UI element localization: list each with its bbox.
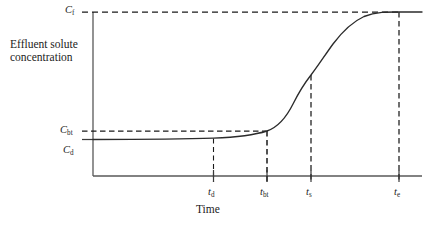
t-bt-label: tbt — [260, 186, 269, 198]
c-d-label-sub: d — [70, 149, 74, 157]
plot-area — [0, 0, 430, 228]
c-f-label-base: C — [65, 4, 72, 15]
t-s-label-sub: s — [309, 191, 312, 199]
c-bt-label-base: C — [60, 124, 67, 135]
y-axis-title: Effluent solute concentration — [10, 38, 102, 64]
y-axis-title-line2: concentration — [10, 51, 102, 64]
c-d-label-base: C — [63, 144, 70, 155]
y-axis-title-line1: Effluent solute — [10, 38, 102, 51]
t-s-label: ts — [306, 186, 312, 198]
x-axis-title: Time — [196, 203, 220, 216]
c-bt-label-sub: bt — [67, 129, 73, 137]
t-d-label-sub: d — [211, 191, 215, 199]
c-f-label-sub: f — [72, 9, 75, 17]
c-f-label: Cf — [65, 4, 75, 16]
t-bt-label-sub: bt — [263, 191, 269, 199]
c-d-label: Cd — [63, 144, 74, 156]
t-d-label: td — [208, 186, 215, 198]
t-e-label-sub: e — [397, 191, 400, 199]
breakthrough-curve-figure: Effluent solute concentration Time Cf Cb… — [0, 0, 430, 228]
t-e-label: te — [394, 186, 400, 198]
breakthrough-curve — [93, 12, 422, 140]
c-bt-label: Cbt — [60, 124, 73, 136]
